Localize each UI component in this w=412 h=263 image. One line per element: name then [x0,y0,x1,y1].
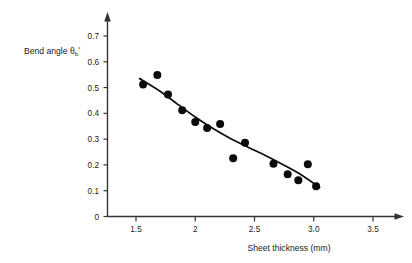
data-point [164,91,172,99]
x-tick-label: 2 [193,225,198,234]
x-axis-title: Sheet thickness (mm) [247,243,330,253]
data-point [178,106,186,114]
x-tick-label: 3.0 [308,225,320,234]
data-point [241,139,249,147]
data-point [312,182,320,190]
data-point [294,176,302,184]
x-tick-label: 2.5 [249,225,261,234]
y-axis-arrowhead [104,12,111,22]
y-tick-label: 0.2 [88,161,100,170]
y-axis-title: Bend angle θb° [24,46,81,57]
y-tick-label: 0 [94,213,99,222]
chart-figure: Bend angle θb° Sheet thickness (mm) 00.1… [0,0,412,263]
scatter-plot-canvas: Bend angle θb° Sheet thickness (mm) 00.1… [0,0,412,263]
x-axis-arrowhead [395,213,405,220]
data-point [203,124,211,132]
x-tick-label: 1.5 [130,225,142,234]
y-tick-label: 0.5 [88,84,100,93]
y-tick-label: 0.4 [88,109,100,118]
data-point [139,80,147,88]
y-tick-label: 0.1 [88,187,100,196]
svg-text:Bend angle θb°: Bend angle θb° [24,46,81,57]
data-point [191,118,199,126]
y-tick-label: 0.3 [88,135,100,144]
y-axis-title-text: Bend angle [24,46,68,56]
data-point [229,154,237,162]
axis-lines [104,12,404,220]
theta-subscript: b [75,51,79,57]
data-point [284,170,292,178]
degree-superscript: ° [78,46,81,52]
x-axis-ticks: 1.522.53.03.5 [130,217,379,235]
data-point [269,160,277,168]
data-point [153,71,161,79]
x-axis-title-text: Sheet thickness (mm) [247,243,330,253]
y-tick-label: 0.6 [88,58,100,67]
x-tick-label: 3.5 [367,225,379,234]
data-points-group [139,71,320,190]
y-tick-label: 0.7 [88,32,100,41]
y-axis-ticks: 00.10.20.30.40.50.60.7 [88,32,108,222]
data-point [304,160,312,168]
data-point [216,120,224,128]
